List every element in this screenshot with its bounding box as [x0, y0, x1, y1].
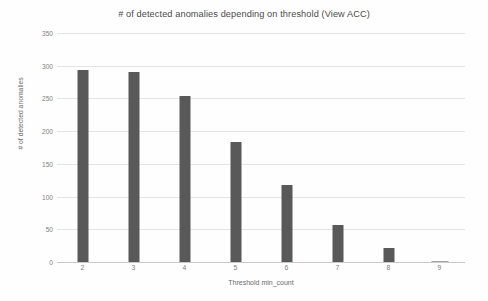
y-tick-label: 300	[27, 62, 53, 69]
x-axis-title: Threshold min_count	[57, 279, 465, 286]
x-tick-label: 7	[336, 264, 340, 271]
bar	[230, 142, 241, 262]
bar	[383, 248, 394, 262]
bar	[281, 185, 292, 262]
chart-title: # of detected anomalies depending on thr…	[0, 9, 488, 19]
bar	[431, 261, 448, 262]
x-tick-label: 2	[81, 264, 85, 271]
x-tick-label: 6	[285, 264, 289, 271]
x-tick-label: 9	[438, 264, 442, 271]
y-tick-label: 200	[27, 128, 53, 135]
y-tick-label: 50	[27, 226, 53, 233]
x-tick-label: 8	[387, 264, 391, 271]
x-tick-label: 3	[132, 264, 136, 271]
y-tick-label: 150	[27, 160, 53, 167]
bar	[332, 225, 343, 262]
y-tick-label: 0	[27, 259, 53, 266]
bar	[77, 70, 88, 262]
y-tick-label: 100	[27, 193, 53, 200]
gridline	[57, 66, 465, 67]
x-tick-label: 5	[234, 264, 238, 271]
x-tick-label: 4	[183, 264, 187, 271]
y-axis-tick-labels: 050100150200250300350	[23, 33, 53, 262]
gridline	[57, 197, 465, 198]
plot-area	[57, 33, 465, 262]
gridline	[57, 229, 465, 230]
gridline	[57, 98, 465, 99]
y-tick-label: 350	[27, 30, 53, 37]
gridline	[57, 164, 465, 165]
y-tick-label: 250	[27, 95, 53, 102]
x-axis-tick-labels: 23456789	[57, 264, 465, 278]
bar	[179, 96, 190, 262]
bar-chart: # of detected anomalies depending on thr…	[0, 0, 488, 301]
gridline	[57, 33, 465, 34]
bar	[128, 72, 139, 262]
gridline	[57, 262, 465, 263]
gridline	[57, 131, 465, 132]
